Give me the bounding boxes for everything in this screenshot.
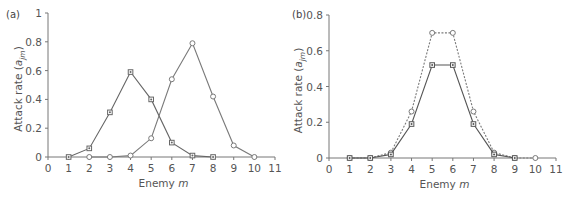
circle-marker [450, 30, 455, 35]
circle-marker [190, 41, 195, 46]
marker-dot [349, 157, 351, 159]
marker-dot [493, 153, 495, 155]
y-tick-label: 0.4 [306, 81, 323, 93]
x-tick-label: 5 [148, 162, 155, 174]
marker-dot [514, 157, 516, 159]
x-tick-label: 6 [168, 162, 175, 174]
circle-marker [430, 30, 435, 35]
x-tick-label: 4 [127, 162, 134, 174]
marker-dot [390, 153, 392, 155]
x-tick-label: 8 [210, 162, 217, 174]
y-tick-label: 0.6 [25, 65, 42, 77]
marker-dot [191, 155, 193, 157]
y-tick-label: 0.8 [306, 9, 323, 21]
x-tick-label: 0 [45, 162, 52, 174]
marker-dot [171, 142, 173, 144]
y-tick-label: 0 [35, 151, 42, 163]
circle-marker [533, 156, 538, 161]
y-tick-label: 0 [316, 152, 323, 164]
circle-marker [87, 155, 92, 160]
x-axis-title: Enemy m [420, 178, 470, 190]
x-tick-label: 2 [86, 162, 93, 174]
circle-marker [471, 109, 476, 114]
x-tick-label: 7 [470, 163, 477, 175]
y-tick-label: 0.6 [306, 45, 323, 57]
x-tick-label: 1 [65, 162, 72, 174]
marker-dot [150, 98, 152, 100]
x-tick-label: 3 [388, 163, 395, 175]
x-tick-label: 4 [408, 163, 415, 175]
y-tick-label: 0.4 [25, 93, 42, 105]
x-axis-title: Enemy m [139, 177, 189, 189]
marker-dot [68, 156, 70, 158]
x-tick-label: 11 [549, 163, 562, 175]
x-tick-label: 0 [326, 163, 333, 175]
series-line [69, 72, 214, 157]
marker-dot [472, 123, 474, 125]
x-tick-label: 8 [491, 163, 498, 175]
circle-marker [231, 143, 236, 148]
marker-dot [109, 111, 111, 113]
panel-label: (b) [292, 9, 306, 20]
y-tick-label: 0.8 [25, 36, 42, 48]
circle-marker [252, 155, 257, 160]
panel-b-chart: (b)0123456789101100.20.40.60.8Enemy mAtt… [292, 9, 563, 190]
marker-dot [369, 157, 371, 159]
y-tick-label: 0.2 [25, 122, 42, 134]
circle-marker [107, 155, 112, 160]
y-tick-label: 1 [35, 7, 42, 19]
marker-dot [411, 123, 413, 125]
marker-dot [212, 156, 214, 158]
x-tick-label: 2 [367, 163, 374, 175]
x-tick-label: 7 [189, 162, 196, 174]
panel-a-chart: (a)0123456789101100.20.40.60.81Enemy mAt… [6, 7, 282, 189]
panel-label: (a) [6, 9, 20, 20]
marker-dot [130, 71, 132, 73]
y-axis-title: Attack rate (ajm) [292, 48, 307, 134]
x-tick-label: 11 [268, 162, 281, 174]
series-line [350, 33, 536, 158]
x-tick-label: 1 [346, 163, 353, 175]
marker-dot [452, 64, 454, 66]
circle-marker [409, 109, 414, 114]
x-tick-label: 10 [529, 163, 542, 175]
x-tick-label: 3 [107, 162, 114, 174]
circle-marker [211, 94, 216, 99]
circle-marker [149, 136, 154, 141]
x-tick-label: 5 [429, 163, 436, 175]
circle-marker [169, 77, 174, 82]
series-line [350, 65, 515, 158]
marker-dot [431, 64, 433, 66]
x-tick-label: 9 [511, 163, 518, 175]
y-tick-label: 0.2 [306, 116, 323, 128]
x-tick-label: 9 [230, 162, 237, 174]
y-axis-title: Attack rate (ajm) [12, 46, 27, 132]
x-tick-label: 10 [248, 162, 261, 174]
circle-marker [128, 153, 133, 158]
x-tick-label: 6 [449, 163, 456, 175]
figure: (a)0123456789101100.20.40.60.81Enemy mAt… [0, 0, 572, 198]
marker-dot [88, 147, 90, 149]
